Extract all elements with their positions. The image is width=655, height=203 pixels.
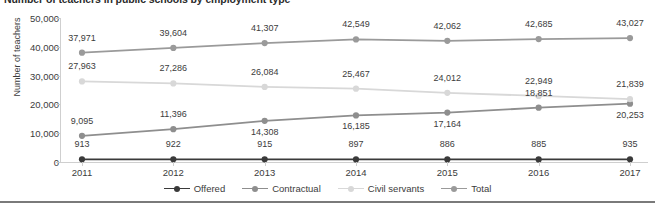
- data-label: 16,185: [326, 121, 386, 131]
- x-tick-mark: [539, 162, 540, 166]
- x-tick-label: 2014: [326, 167, 386, 178]
- data-label: 24,012: [417, 73, 477, 83]
- x-tick-label: 2012: [143, 167, 203, 178]
- chart-figure: Number of teachers in public schools by …: [0, 0, 655, 203]
- data-label: 885: [509, 139, 569, 149]
- data-point: [170, 126, 176, 132]
- legend-label: Total: [471, 183, 491, 194]
- data-label: 43,027: [600, 18, 655, 28]
- x-tick-label: 2016: [509, 167, 569, 178]
- legend-item[interactable]: Offered: [164, 183, 226, 194]
- legend-item[interactable]: Contractual: [242, 183, 321, 194]
- data-label: 886: [417, 139, 477, 149]
- data-label: 42,685: [509, 19, 569, 29]
- data-point: [79, 78, 85, 84]
- data-point: [444, 90, 450, 96]
- legend-label: Contractual: [272, 183, 321, 194]
- x-tick-mark: [173, 162, 174, 166]
- legend-swatch-icon: [441, 185, 467, 193]
- data-point: [170, 45, 176, 51]
- data-label: 20,253: [600, 110, 655, 120]
- data-label: 17,164: [417, 119, 477, 129]
- data-point: [536, 105, 542, 111]
- x-tick-mark: [265, 162, 266, 166]
- data-point: [627, 35, 633, 41]
- chart-legend: OfferedContractualCivil servantsTotal: [0, 183, 655, 194]
- x-tick-label: 2011: [52, 167, 112, 178]
- data-point: [353, 86, 359, 92]
- legend-item[interactable]: Civil servants: [338, 183, 425, 194]
- data-label: 27,963: [52, 61, 112, 71]
- data-label: 18,851: [509, 88, 569, 98]
- data-point: [170, 80, 176, 86]
- legend-label: Civil servants: [368, 183, 425, 194]
- data-point: [444, 109, 450, 115]
- x-tick-label: 2017: [600, 167, 655, 178]
- legend-swatch-icon: [338, 185, 364, 193]
- data-point: [444, 38, 450, 44]
- data-point: [262, 118, 268, 124]
- data-label: 935: [600, 139, 655, 149]
- data-label: 27,286: [143, 63, 203, 73]
- x-tick-mark: [447, 162, 448, 166]
- data-label: 14,308: [235, 127, 295, 137]
- legend-item[interactable]: Total: [441, 183, 491, 194]
- data-label: 9,095: [52, 116, 112, 126]
- data-point: [79, 133, 85, 139]
- data-label: 42,549: [326, 19, 386, 29]
- data-point: [353, 112, 359, 118]
- data-label: 897: [326, 139, 386, 149]
- data-label: 42,062: [417, 21, 477, 31]
- data-label: 915: [235, 139, 295, 149]
- data-label: 26,084: [235, 67, 295, 77]
- data-point: [79, 50, 85, 56]
- legend-swatch-icon: [242, 185, 268, 193]
- data-point: [627, 96, 633, 102]
- data-label: 22,949: [509, 76, 569, 86]
- data-label: 21,839: [600, 79, 655, 89]
- data-point: [536, 36, 542, 42]
- data-label: 39,604: [143, 28, 203, 38]
- data-label: 913: [52, 139, 112, 149]
- x-tick-mark: [356, 162, 357, 166]
- data-point: [353, 36, 359, 42]
- x-tick-label: 2013: [235, 167, 295, 178]
- legend-swatch-icon: [164, 185, 190, 193]
- data-label: 11,396: [143, 109, 203, 119]
- data-point: [262, 84, 268, 90]
- data-label: 922: [143, 139, 203, 149]
- data-label: 25,467: [326, 69, 386, 79]
- x-tick-mark: [82, 162, 83, 166]
- x-tick-mark: [630, 162, 631, 166]
- legend-label: Offered: [194, 183, 226, 194]
- x-tick-label: 2015: [417, 167, 477, 178]
- data-point: [262, 40, 268, 46]
- data-label: 37,971: [52, 33, 112, 43]
- data-label: 41,307: [235, 23, 295, 33]
